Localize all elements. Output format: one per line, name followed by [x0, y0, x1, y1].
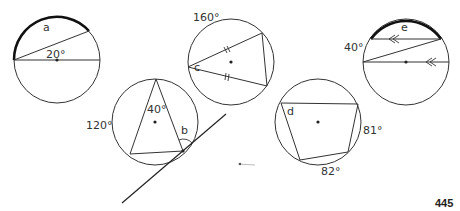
- label-e: e: [401, 21, 408, 34]
- label-c: c: [194, 61, 200, 74]
- label-160deg: 160°: [193, 11, 220, 24]
- label-40deg-e: 40°: [344, 41, 364, 54]
- label-a: a: [43, 21, 50, 34]
- label-81deg: 81°: [363, 124, 383, 137]
- circle-theorems-diagram: a 20° c 160° b 40° 120° d 81° 82°: [0, 0, 460, 211]
- label-120deg: 120°: [86, 119, 113, 132]
- figure-circle-b: b 40° 120°: [86, 79, 226, 203]
- figure-circle-d: d 81° 82°: [275, 79, 383, 178]
- label-82deg: 82°: [321, 165, 341, 178]
- figure-circle-a: a 20°: [14, 17, 100, 103]
- label-d: d: [287, 105, 294, 118]
- label-20deg: 20°: [46, 48, 66, 61]
- label-40deg: 40°: [147, 103, 167, 116]
- label-b: b: [181, 124, 188, 137]
- page-number: 445: [435, 197, 453, 209]
- figure-circle-c: c 160°: [188, 11, 274, 105]
- figure-circle-e: e 40°: [344, 19, 449, 105]
- faint-artifact: [238, 163, 255, 165]
